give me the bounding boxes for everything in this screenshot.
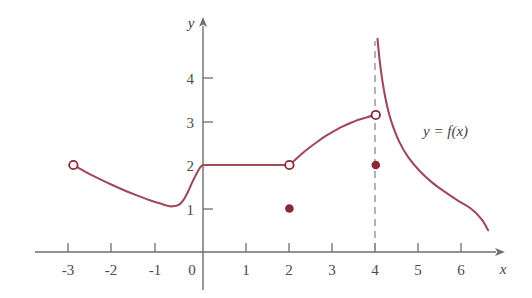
y-tick-label-3: 3: [187, 115, 195, 131]
x-axis-ticks: [68, 243, 461, 252]
x-axis-tick-labels: -3 -2 -1 0 1 2 3 4 5 6: [62, 262, 466, 278]
y-tick-label-1: 1: [187, 202, 195, 218]
open-circle-point: [69, 161, 77, 169]
y-tick-label-4: 4: [187, 71, 195, 87]
axes-group: [35, 26, 496, 290]
x-tick-label-4: 4: [371, 262, 379, 278]
filled-points-group: [285, 161, 380, 213]
function-annotation-label: y = f(x): [421, 123, 468, 140]
x-tick-label--1: -1: [149, 262, 162, 278]
filled-circle-point: [372, 161, 381, 170]
curve-branch-rising-arc: [289, 115, 375, 165]
filled-circle-point: [285, 204, 294, 213]
curve-branch-left-descending: [73, 165, 203, 206]
x-tick-label--3: -3: [62, 262, 75, 278]
x-tick-label-1: 1: [242, 262, 250, 278]
y-axis-label: y: [186, 15, 195, 31]
x-axis-label: x: [499, 261, 507, 277]
x-tick-label-5: 5: [414, 262, 422, 278]
y-axis-ticks: [203, 78, 213, 209]
graph-canvas: -3 -2 -1 0 1 2 3 4 5 6 1 2 3 4 x y y: [0, 0, 532, 298]
x-tick-label--2: -2: [105, 262, 118, 278]
y-axis-tick-labels: 1 2 3 4: [187, 71, 195, 218]
x-tick-label-6: 6: [457, 262, 465, 278]
y-tick-label-2: 2: [187, 158, 195, 174]
x-tick-label-0: 0: [188, 262, 196, 278]
x-tick-label-3: 3: [328, 262, 336, 278]
open-points-group: [69, 111, 380, 169]
open-circle-point: [285, 161, 293, 169]
x-tick-label-2: 2: [285, 262, 293, 278]
open-circle-point: [372, 111, 380, 119]
function-graph-figure: -3 -2 -1 0 1 2 3 4 5 6 1 2 3 4 x y y: [0, 0, 532, 298]
